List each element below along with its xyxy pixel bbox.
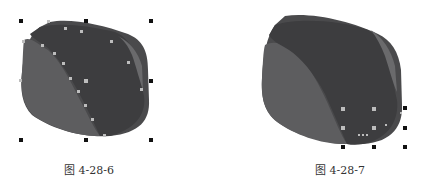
figure-caption: 图 4-28-6 [64, 161, 114, 177]
figure-4-28-7: 图 4-28-7 [213, 0, 426, 183]
shape-illustration [0, 0, 213, 183]
figure-caption: 图 4-28-7 [315, 161, 365, 177]
shape-illustration [213, 0, 426, 183]
figure-4-28-6: 图 4-28-6 [0, 0, 213, 183]
